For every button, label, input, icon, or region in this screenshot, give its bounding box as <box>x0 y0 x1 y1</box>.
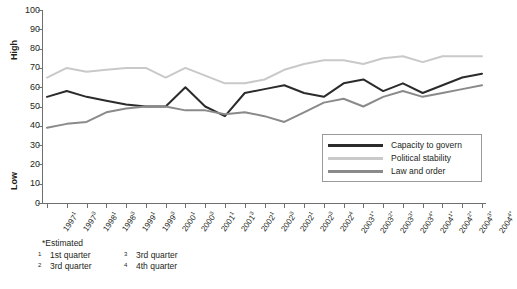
legend: Capacity to govern Political stability L… <box>322 134 482 182</box>
data-series <box>47 56 482 127</box>
legend-label-political-stability: Political stability <box>391 154 451 163</box>
footnote-marker-1: 1 <box>38 250 50 257</box>
legend-item-political-stability: Political stability <box>328 152 476 165</box>
legend-label-law-and-order: Law and order <box>391 167 445 176</box>
footnote-text-2: 3rd quarter <box>50 261 124 271</box>
footnote-grid: 11st quarter33rd quarter23rd quarter44th… <box>38 250 338 271</box>
chart-footnotes: *Estimated 11st quarter33rd quarter23rd … <box>38 238 338 271</box>
legend-item-law-and-order: Law and order <box>328 165 476 178</box>
footnote-marker-2: 2 <box>38 261 50 268</box>
legend-label-capacity-to-govern: Capacity to govern <box>391 141 462 150</box>
legend-swatch-political-stability <box>328 157 383 160</box>
footnote-marker-4: 4 <box>124 261 136 268</box>
footnote-text-3: 3rd quarter <box>136 250 338 260</box>
footnote-text-1: 1st quarter <box>50 250 124 260</box>
footnote-marker-3: 3 <box>124 250 136 257</box>
legend-item-capacity-to-govern: Capacity to govern <box>328 139 476 152</box>
legend-swatch-law-and-order <box>328 170 383 173</box>
estimated-note: *Estimated <box>42 238 338 248</box>
series-line-law-and-order <box>47 85 482 127</box>
x-tick-label-22: 20044* <box>496 210 517 235</box>
footnote-text-4: 4th quarter <box>136 261 338 271</box>
series-line-political-stability <box>47 56 482 83</box>
legend-swatch-capacity-to-govern <box>328 144 383 147</box>
